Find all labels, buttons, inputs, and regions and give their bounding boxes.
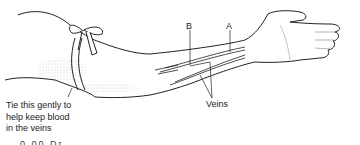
caption-line-2: help keep blood [6, 112, 86, 124]
tourniquet-caption: Tie this gently to help keep blood in th… [6, 100, 86, 135]
cropped-text: 0.00 Dr... [20, 139, 77, 145]
caption-line-3: in the veins [6, 123, 86, 135]
label-veins: Veins [206, 99, 228, 110]
label-b: B [186, 21, 192, 32]
caption-line-1: Tie this gently to [6, 100, 86, 112]
label-a: A [226, 21, 232, 32]
